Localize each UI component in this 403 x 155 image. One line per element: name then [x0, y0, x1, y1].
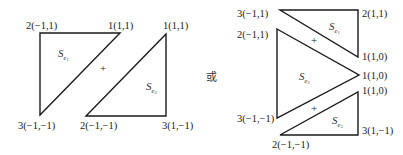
left-e1-vertex-1-label: 1(1,1)	[108, 20, 134, 32]
right-plus-sign-top: +	[311, 34, 317, 46]
left-triangle-e2	[86, 34, 166, 116]
left-e2-vertex-3-label: 3(1,−1)	[162, 120, 194, 132]
right-e3-vertex-3-label: 3(1,−1)	[362, 125, 394, 137]
right-e3-vertex-2-label: 2(−1,−1)	[272, 139, 310, 151]
right-figure: 3(−1,1) 2(1,1) 1(1,0) 2(−1,1) 1(1,0) 3(−…	[237, 8, 394, 151]
right-e1-vertex-3-label: 3(−1,1)	[237, 8, 269, 20]
right-plus-sign-bottom: +	[311, 102, 317, 114]
left-figure: 2(−1,1) 1(1,1) 3(−1,−1) 1(1,1) 2(−1,−1) …	[18, 20, 194, 132]
left-plus-sign: +	[100, 62, 106, 74]
left-triangle-e1	[40, 33, 120, 115]
right-triangle-e3	[280, 92, 358, 135]
left-e1-vertex-3-label: 3(−1,−1)	[18, 120, 56, 132]
right-area-label-e3: Se3	[332, 114, 343, 129]
right-e2-vertex-1-label: 1(1,0)	[362, 70, 388, 82]
right-e2-vertex-2-label: 2(−1,1)	[237, 29, 269, 41]
right-e3-vertex-1-label: 1(1,0)	[362, 85, 388, 97]
right-area-label-e2: Se2	[299, 70, 310, 85]
left-e1-vertex-2-label: 2(−1,1)	[26, 20, 58, 32]
right-e1-vertex-1-label: 1(1,0)	[362, 51, 388, 63]
right-area-label-e1: Se1	[329, 20, 340, 35]
left-area-label-e2: Se2	[146, 80, 157, 95]
or-separator: 或	[206, 71, 217, 84]
right-e2-vertex-3-label: 3(−1,−1)	[237, 113, 275, 125]
right-e1-vertex-2-label: 2(1,1)	[362, 8, 388, 20]
left-e2-vertex-2-label: 2(−1,−1)	[80, 120, 118, 132]
left-e2-vertex-1-label: 1(1,1)	[163, 20, 189, 32]
left-area-label-e1: Se1	[58, 47, 69, 62]
triangular-element-diagram: 2(−1,1) 1(1,1) 3(−1,−1) 1(1,1) 2(−1,−1) …	[0, 0, 403, 155]
right-triangle-e2	[277, 29, 359, 118]
right-triangle-e1	[280, 10, 358, 57]
